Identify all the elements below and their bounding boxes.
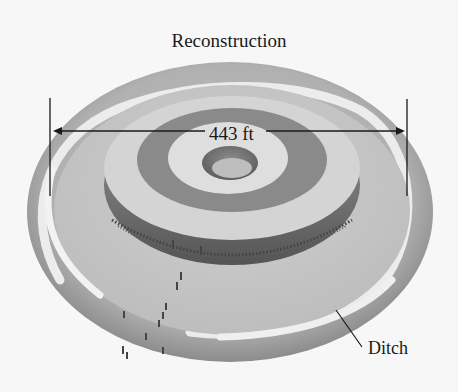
dimension-label: 443 ft	[207, 123, 256, 145]
center-pit-floor	[212, 158, 252, 178]
henge-illustration	[0, 0, 458, 392]
ditch-label: Ditch	[368, 338, 408, 359]
